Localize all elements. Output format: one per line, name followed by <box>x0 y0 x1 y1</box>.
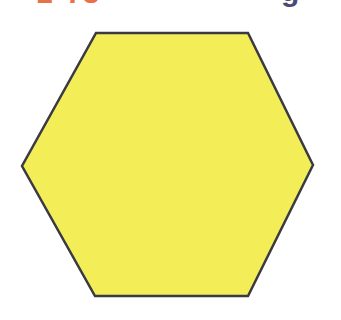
screenshot-canvas: 1 73 g <box>0 0 341 320</box>
hexagon-svg <box>0 0 341 320</box>
hexagon-shape <box>22 33 313 296</box>
hexagon-container <box>0 0 341 320</box>
